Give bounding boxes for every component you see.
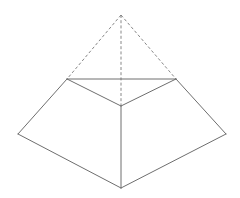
edge-top-right-to-top-front — [121, 79, 176, 106]
dashed-edge-apex-to-top-right — [121, 15, 176, 79]
frustum-diagram — [0, 0, 240, 198]
edge-bottom-right-to-bottom-front — [121, 134, 226, 188]
edge-bottom-left-to-bottom-front — [18, 134, 121, 188]
edge-top-left-to-top-front — [67, 79, 121, 106]
solid-edges — [18, 79, 226, 188]
edge-top-right-to-bottom-right — [176, 79, 226, 134]
edge-top-left-to-bottom-left — [18, 79, 67, 134]
dashed-edge-apex-to-top-left — [67, 15, 121, 79]
dashed-edges — [67, 15, 176, 106]
